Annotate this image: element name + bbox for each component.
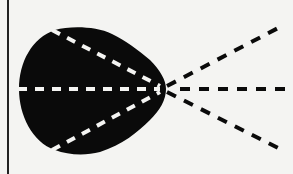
- diagram: [0, 0, 293, 174]
